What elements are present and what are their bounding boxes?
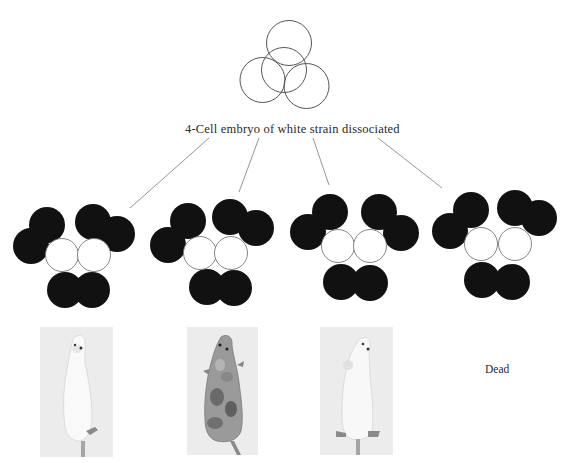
mouse-photo-white-1 (40, 327, 113, 457)
embryo-cell (267, 21, 312, 66)
aggregate-1 (13, 204, 135, 308)
mouse-photo-chimera (187, 327, 258, 455)
black-cell (290, 214, 326, 250)
dead-outcome-label: Dead (485, 363, 509, 375)
white-cell (184, 237, 217, 270)
black-cell (74, 272, 110, 308)
connector-line-4 (378, 138, 442, 188)
black-cell (521, 200, 557, 236)
aggregate-3 (290, 194, 419, 301)
chimeric-mouse-image (187, 327, 258, 455)
black-cell (216, 270, 252, 306)
white-mouse-image (40, 327, 113, 457)
connector-line-3 (313, 138, 329, 185)
top-four-cell-embryo (240, 21, 329, 109)
aggregate-2 (150, 199, 274, 306)
embryo-caption: 4-Cell embryo of white strain dissociate… (185, 122, 400, 137)
white-cell (46, 239, 79, 272)
white-cell (354, 230, 387, 263)
black-cell (432, 213, 468, 249)
black-cell (150, 227, 186, 263)
white-cell (322, 230, 355, 263)
chimera-embryo-figure: 4-Cell embryo of white strain dissociate… (0, 0, 575, 463)
white-cell (78, 239, 111, 272)
black-cell (352, 265, 388, 301)
white-cell (215, 237, 248, 270)
black-cell (494, 264, 530, 300)
mouse-photo-white-2 (320, 327, 393, 455)
white-mouse-image (320, 327, 393, 455)
white-cell (499, 228, 532, 261)
aggregate-4 (432, 190, 557, 300)
black-cell (238, 210, 274, 246)
black-cell (383, 215, 419, 251)
connector-lines (130, 138, 442, 208)
connector-line-2 (239, 138, 259, 192)
black-cell (13, 228, 49, 264)
connector-line-1 (130, 138, 209, 208)
white-cell (465, 228, 498, 261)
